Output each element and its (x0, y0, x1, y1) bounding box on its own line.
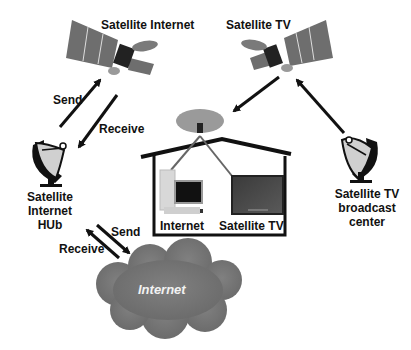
broadcast-center-dish-icon (342, 137, 378, 183)
satellite-internet-hub-label: Satellite Internet HUb (19, 190, 81, 232)
receive-arrow-satellite-to-hub (79, 95, 117, 147)
satellite-network-diagram: Satellite Internet Satellite TV Send Rec… (0, 0, 411, 350)
arrow-broadcast-to-satellite-tv (297, 80, 344, 133)
house-internet-label: Internet (160, 219, 204, 233)
receive-label-lower: Receive (59, 242, 104, 256)
receive-label-upper: Receive (99, 122, 144, 136)
satellite-internet-label: Satellite Internet (101, 18, 194, 32)
computer-icon (160, 170, 203, 214)
broadcast-label-line-1: Satellite TV (326, 187, 408, 201)
diagram-graphics (0, 0, 411, 350)
cloud-internet-label: Internet (138, 283, 186, 297)
house-icon (141, 109, 291, 235)
send-label-upper: Send (53, 93, 82, 107)
satellite-internet-hub-dish-icon (32, 140, 66, 187)
send-label-lower: Send (111, 225, 140, 239)
broadcast-label-line-2: broadcast (326, 201, 408, 215)
television-icon (232, 176, 283, 214)
hub-label-line-1: Satellite (19, 190, 81, 204)
satellite-tv-label: Satellite TV (226, 18, 291, 32)
broadcast-label-line-3: center (326, 215, 408, 229)
broadcast-center-label: Satellite TV broadcast center (326, 187, 408, 229)
hub-label-line-2: Internet (19, 204, 81, 218)
arrow-satellite-tv-to-house (234, 77, 279, 111)
house-satellite-tv-label: Satellite TV (219, 219, 284, 233)
hub-label-line-3: HUb (19, 218, 81, 232)
